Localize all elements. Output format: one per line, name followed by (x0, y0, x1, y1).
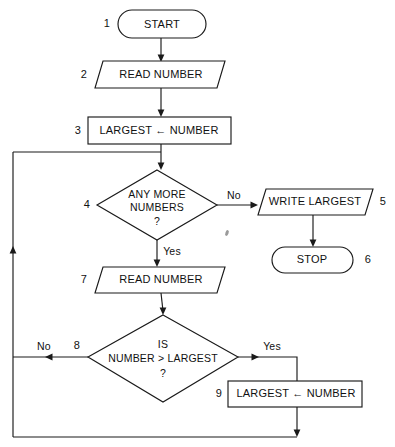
connector-decision4-no-to-write (217, 202, 258, 209)
connector-left-return-rail (10, 152, 17, 437)
connector-assign2-to-bottom-rail (294, 407, 301, 437)
node-read-number-2[interactable]: READ NUMBER 7 (81, 267, 225, 293)
node-decision4-label-line1: ANY MORE (128, 188, 185, 200)
node-stop-number: 6 (365, 253, 371, 265)
edge-label-decision8-no: No (37, 340, 51, 352)
node-write-largest-number: 5 (380, 195, 386, 207)
node-read-number-1[interactable]: READ NUMBER 2 (81, 61, 225, 88)
node-start[interactable]: START 1 (104, 10, 206, 38)
node-assign-largest-2[interactable]: LARGEST ← NUMBER 9 (216, 381, 362, 407)
node-read-number-1-number: 2 (81, 68, 87, 80)
node-start-label: START (144, 18, 180, 30)
connector-assign1-to-decision4 (158, 144, 165, 170)
connector-start-to-read1 (158, 38, 165, 62)
node-decision4-label-line2: NUMBERS (130, 201, 184, 213)
node-stop-label: STOP (297, 253, 328, 265)
node-read-number-1-label: READ NUMBER (119, 68, 203, 80)
edge-label-decision4-no: No (227, 189, 241, 201)
node-decision8-label-line2: NUMBER > LARGEST (108, 352, 218, 364)
node-assign-largest-2-label: LARGEST ← NUMBER (236, 387, 355, 399)
node-decision8-label-line1: IS (158, 338, 168, 350)
connector-decision4-yes-to-read2 (154, 240, 161, 267)
node-start-number: 1 (104, 17, 110, 29)
node-read-number-2-number: 7 (81, 273, 87, 285)
node-decision4-label-line3: ? (154, 215, 160, 227)
flowchart-canvas: 5 --> 7 --> left rail --> down into 9 --… (0, 0, 395, 447)
connector-decision8-yes-to-assign2 (238, 354, 297, 381)
node-decision4-number: 4 (84, 198, 90, 210)
node-assign-largest-2-number: 9 (216, 387, 222, 399)
edge-label-decision8-yes: Yes (263, 340, 281, 352)
node-read-number-2-label: READ NUMBER (119, 273, 203, 285)
node-assign-largest-1-label: LARGEST ← NUMBER (99, 124, 218, 136)
node-write-largest-label: WRITE LARGEST (269, 195, 362, 207)
node-decision8-label-line3: ? (160, 367, 166, 379)
node-assign-largest-1[interactable]: LARGEST ← NUMBER 3 (75, 117, 231, 144)
node-assign-largest-1-number: 3 (75, 124, 81, 136)
edge-label-decision4-yes: Yes (163, 245, 181, 257)
connector-write-to-stop (310, 215, 317, 247)
flowchart-svg: 5 --> 7 --> left rail --> down into 9 --… (0, 0, 395, 447)
connector-read1-to-assign1 (158, 88, 165, 117)
node-write-largest[interactable]: WRITE LARGEST 5 (258, 189, 386, 215)
connector-read2-to-decision8 (160, 293, 167, 315)
node-decision-any-more-numbers[interactable]: ANY MORE NUMBERS ? 4 No Yes (84, 170, 241, 257)
scan-artifact-speck (224, 230, 229, 237)
connector-decision8-no-to-rail (13, 354, 88, 361)
node-stop[interactable]: STOP 6 (272, 247, 371, 273)
node-decision8-number: 8 (74, 339, 80, 351)
